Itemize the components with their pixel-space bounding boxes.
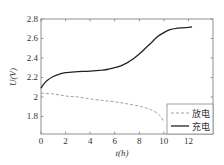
legend: 放电充电	[167, 104, 213, 134]
x-tick-label: 0	[39, 136, 44, 146]
y-tick-label: 1.8	[27, 111, 39, 121]
y-tick-label: 2.6	[27, 33, 39, 43]
y-tick-label: 2.8	[27, 14, 39, 24]
x-tick-label: 8	[137, 136, 142, 146]
legend-label: 充电	[192, 121, 210, 132]
y-tick-label: 2.2	[27, 72, 38, 82]
x-tick-label: 4	[88, 136, 93, 146]
x-tick-label: 10	[159, 136, 169, 146]
x-axis-label: t(h)	[116, 148, 129, 158]
line-chart: 0246810121.822.22.42.62.8 放电充电 t(h) U(V)	[0, 0, 224, 165]
y-tick-label: 2	[34, 92, 39, 102]
y-axis-label: U(V)	[8, 68, 18, 86]
y-tick-label: 2.4	[27, 53, 39, 63]
x-tick-label: 6	[112, 136, 117, 146]
x-tick-label: 12	[184, 136, 193, 146]
x-tick-label: 2	[63, 136, 68, 146]
discharge-line	[41, 93, 164, 122]
legend-label: 放电	[192, 108, 210, 119]
charge-line	[41, 27, 192, 88]
